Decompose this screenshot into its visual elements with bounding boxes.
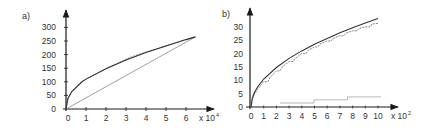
panel-b-y-tick-label: 10 bbox=[234, 75, 244, 85]
panel-a-x-tick-label: 4 bbox=[144, 113, 149, 123]
panel-b-x-tick-label: 9 bbox=[363, 111, 368, 121]
panel-b-y-tick-label: 30 bbox=[234, 22, 244, 32]
panel-b-x-tick-label: 5 bbox=[312, 111, 317, 121]
panel-b-x-tick-label: 8 bbox=[350, 111, 355, 121]
panel-a-y-tick-label: 50 bbox=[47, 90, 57, 100]
panel-b-x-multiplier: x 102 bbox=[391, 110, 411, 121]
panel-a-x-tick-label: 0 bbox=[66, 113, 71, 123]
panel-a-x-multiplier: x 104 bbox=[199, 112, 219, 123]
panel-b-x-tick-label: 10 bbox=[373, 111, 383, 121]
panel-a: a) 0 50 100 150 200 250 300 0 1 bbox=[22, 10, 219, 123]
panel-b-y-tick-label: 0 bbox=[238, 102, 243, 112]
panel-b-y-tick-label: 25 bbox=[234, 35, 244, 45]
panel-a-y-tick-label: 300 bbox=[42, 22, 56, 32]
panel-a-x-tick-label: 2 bbox=[104, 113, 109, 123]
panel-a-label: a) bbox=[22, 11, 30, 21]
panel-b-x-tick-label: 0 bbox=[249, 111, 254, 121]
figure-canvas: a) 0 50 100 150 200 250 300 0 1 bbox=[0, 0, 435, 130]
panel-b-x-tick-label: 6 bbox=[325, 111, 330, 121]
panel-a-x-tick-label: 6 bbox=[184, 113, 189, 123]
panel-b-solid-curve bbox=[251, 18, 378, 107]
panel-b-x-tick-label: 1 bbox=[261, 111, 266, 121]
panel-a-y-tick-label: 250 bbox=[42, 36, 56, 46]
panel-a-x-tick-label: 5 bbox=[164, 113, 169, 123]
panel-b-y-tick-label: 15 bbox=[234, 62, 244, 72]
panel-b-x-tick-label: 2 bbox=[274, 111, 279, 121]
panel-b-x-tick-label: 4 bbox=[299, 111, 304, 121]
panel-b: b) 0 5 10 15 20 25 30 0 1 2 3 4 5 6 7 bbox=[222, 8, 411, 121]
panel-a-y-tick-label: 100 bbox=[42, 77, 56, 87]
panel-b-x-tick-label: 7 bbox=[338, 111, 343, 121]
panel-b-label: b) bbox=[222, 9, 230, 19]
panel-a-y-tick-label: 150 bbox=[42, 63, 56, 73]
panel-b-y-tick-label: 20 bbox=[234, 49, 244, 59]
panel-a-x-tick-label: 3 bbox=[124, 113, 129, 123]
panel-a-x-tick-label: 1 bbox=[84, 113, 89, 123]
panel-a-y-tick-label: 0 bbox=[51, 104, 56, 114]
panel-b-y-tick-label: 5 bbox=[238, 89, 243, 99]
panel-a-straight-line bbox=[66, 37, 195, 109]
panel-b-lower-staircase bbox=[280, 97, 381, 103]
panel-b-x-tick-label: 3 bbox=[287, 111, 292, 121]
panel-b-dashed-staircase bbox=[251, 23, 378, 107]
panel-a-y-tick-label: 200 bbox=[42, 50, 56, 60]
